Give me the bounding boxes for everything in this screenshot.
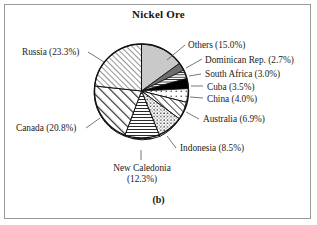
callout-china: China (4.0%) (207, 94, 257, 105)
leader-line-dominican-rep (186, 59, 202, 68)
pie-chart (0, 0, 317, 225)
leader-line-canada (86, 118, 100, 128)
pie-slices (94, 44, 188, 140)
leader-line-russia (88, 52, 104, 62)
leader-line-south-africa (189, 74, 201, 76)
callout-others: Others (15.0%) (188, 40, 245, 51)
callout-south-africa: South Africa (3.0%) (205, 69, 280, 80)
leader-line-china (190, 97, 203, 98)
leader-line-others (167, 45, 185, 60)
figure-panel: Nickel Ore (0, 0, 317, 225)
callout-dominican-rep: Dominican Rep. (2.7%) (205, 55, 294, 66)
callout-indonesia: Indonesia (8.5%) (180, 143, 244, 154)
panel-label: (b) (0, 194, 317, 205)
callout-new-caledonia-line2: (12.3%) (97, 174, 187, 185)
leader-line-australia (186, 112, 199, 119)
callout-russia: Russia (23.3%) (22, 47, 79, 58)
leader-line-indonesia (167, 136, 176, 148)
callout-new-caledonia-line1: New Caledonia (97, 163, 187, 174)
callout-australia: Australia (6.9%) (203, 114, 265, 125)
callout-canada: Canada (20.8%) (16, 123, 76, 134)
callout-cuba: Cuba (3.5%) (207, 82, 255, 93)
